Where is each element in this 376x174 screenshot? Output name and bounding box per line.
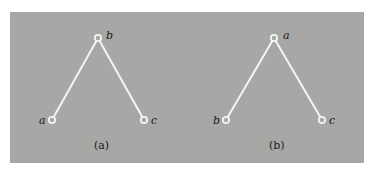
node-top-icon	[95, 35, 101, 41]
node-top-icon	[271, 35, 277, 41]
node-label-left: a	[39, 114, 46, 127]
node-label-right: c	[329, 114, 335, 127]
diagram-a: b a c (a)	[39, 29, 157, 152]
node-right-icon	[319, 117, 325, 123]
tree-diagrams: b a c (a) a b c (b)	[0, 0, 376, 174]
caption-a: (a)	[94, 139, 109, 152]
node-right-icon	[141, 117, 147, 123]
caption-b: (b)	[269, 139, 285, 152]
edge-b-c	[98, 38, 144, 120]
node-left-icon	[223, 117, 229, 123]
edge-a-c	[274, 38, 322, 120]
node-label-top: b	[106, 29, 113, 42]
node-left-icon	[49, 117, 55, 123]
diagram-b: a b c (b)	[213, 29, 335, 152]
node-label-right: c	[151, 114, 157, 127]
node-label-top: a	[283, 29, 290, 42]
edge-a-b	[226, 38, 274, 120]
edge-b-a	[52, 38, 98, 120]
node-label-left: b	[213, 114, 220, 127]
